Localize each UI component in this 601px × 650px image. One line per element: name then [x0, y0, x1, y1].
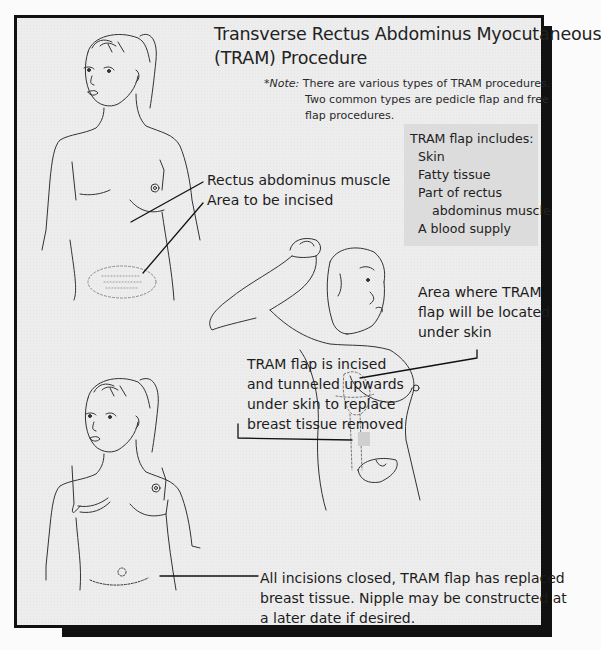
includes-item: A blood supply: [410, 220, 551, 238]
note-line-1: There are various types of TRAM procedur…: [303, 77, 550, 90]
includes-heading: TRAM flap includes:: [410, 130, 551, 148]
includes-item: abdominus muscle: [410, 202, 551, 220]
label-flap-tunneled: TRAM flap is incised and tunneled upward…: [247, 354, 404, 434]
includes-item: Fatty tissue: [410, 166, 551, 184]
page-title: Transverse Rectus Abdominus Myocutaneous…: [214, 22, 601, 70]
note: *Note: There are various types of TRAM p…: [264, 76, 550, 124]
label-line: Area where TRAM: [418, 282, 550, 302]
label-line: TRAM flap is incised: [247, 354, 404, 374]
note-label: *Note:: [264, 77, 299, 90]
label-line: under skin: [418, 322, 550, 342]
figure-before: [42, 34, 200, 300]
note-line-3: flap procedures.: [264, 108, 550, 124]
label-line: a later date if desired.: [260, 608, 567, 628]
label-line: and tunneled upwards: [247, 374, 404, 394]
leader-lines-fig1: [131, 182, 203, 273]
title-line-2: (TRAM) Procedure: [214, 46, 601, 70]
title-line-1: Transverse Rectus Abdominus Myocutaneous: [214, 22, 601, 46]
label-incision-area: Area to be incised: [207, 191, 333, 210]
label-line: breast tissue removed: [247, 414, 404, 434]
label-rectus-muscle: Rectus abdominus muscle: [207, 171, 390, 190]
includes-list: TRAM flap includes: Skin Fatty tissue Pa…: [410, 130, 551, 238]
note-line-2: Two common types are pedicle flap and fr…: [264, 92, 550, 108]
includes-item: Part of rectus: [410, 184, 551, 202]
label-line: breast tissue. Nipple may be constructed…: [260, 588, 567, 608]
label-flap-location: Area where TRAM flap will be located und…: [418, 282, 550, 342]
label-line: flap will be located: [418, 302, 550, 322]
label-incisions-closed: All incisions closed, TRAM flap has repl…: [260, 568, 567, 628]
label-line: All incisions closed, TRAM flap has repl…: [260, 568, 567, 588]
includes-item: Skin: [410, 148, 551, 166]
figure-after: [46, 378, 200, 590]
label-line: under skin to replace: [247, 394, 404, 414]
